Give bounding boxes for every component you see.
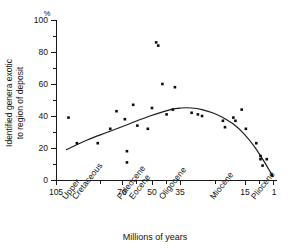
y-axis-ticks xyxy=(51,20,56,180)
y-axis-title-line1: Identified genera exotic xyxy=(4,58,14,147)
data-point xyxy=(151,107,154,110)
y-tick-label-20: 20 xyxy=(39,143,49,153)
y-tick-label-60: 60 xyxy=(39,79,49,89)
data-point xyxy=(157,44,160,47)
data-point xyxy=(161,83,164,86)
data-point xyxy=(147,128,150,131)
y-tick-label-0: 0 xyxy=(43,175,48,185)
data-point xyxy=(96,142,99,145)
x-tick-label-50: 50 xyxy=(147,187,157,197)
data-point xyxy=(136,124,139,127)
x-axis-title: Millions of years xyxy=(123,232,188,242)
x-tick-label-1: 1 xyxy=(272,187,277,197)
data-point xyxy=(109,128,112,131)
y-tick-label-80: 80 xyxy=(39,47,49,57)
data-point xyxy=(197,113,200,116)
data-point xyxy=(124,118,127,121)
data-point xyxy=(190,112,193,115)
data-point xyxy=(126,161,129,164)
data-point xyxy=(259,158,262,161)
y-tick-label-100: 100 xyxy=(34,15,48,25)
y-axis-title-line2: to region of deposit xyxy=(15,66,25,139)
y-axis-title: Identified genera exotic to region of de… xyxy=(4,58,25,147)
data-point xyxy=(115,110,118,113)
y-tick-label-40: 40 xyxy=(39,111,49,121)
epoch-label-miocene: Miocene xyxy=(208,170,236,202)
data-point xyxy=(201,115,204,118)
data-point xyxy=(255,142,258,145)
data-point xyxy=(240,108,243,111)
data-point xyxy=(126,150,129,153)
data-point xyxy=(174,86,177,89)
chart-figure: % 0 20 40 60 80 100 xyxy=(0,0,291,248)
data-point xyxy=(261,164,264,167)
data-point xyxy=(76,142,79,145)
data-point xyxy=(222,120,225,123)
data-point xyxy=(265,158,268,161)
data-point xyxy=(172,108,175,111)
data-point xyxy=(155,41,158,44)
x-tick-label-35: 35 xyxy=(175,187,185,197)
data-point xyxy=(165,113,168,116)
data-point xyxy=(232,116,235,119)
scatter-plot-svg: % 0 20 40 60 80 100 xyxy=(0,0,291,248)
data-point xyxy=(132,104,135,107)
data-point xyxy=(67,116,70,119)
data-point xyxy=(271,174,274,177)
data-point xyxy=(259,155,262,158)
data-point xyxy=(224,126,227,129)
data-point-group xyxy=(67,41,273,176)
y-axis-tick-labels: 0 20 40 60 80 100 xyxy=(34,15,48,185)
data-point xyxy=(234,120,237,123)
data-point xyxy=(245,128,248,131)
